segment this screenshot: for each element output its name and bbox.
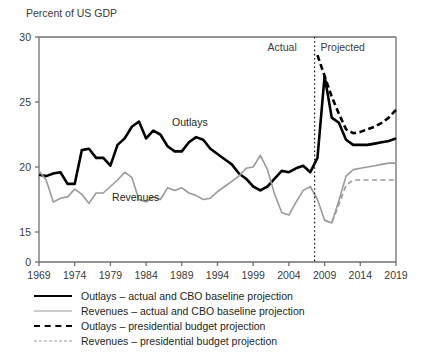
legend-label: Outlays – actual and CBO baseline projec…: [81, 290, 293, 302]
legend-swatch: [34, 336, 72, 346]
x-tick-label: 2014: [340, 269, 380, 281]
y-tick-label: 30: [7, 31, 31, 43]
chart-legend: Outlays – actual and CBO baseline projec…: [34, 288, 374, 348]
series-inline-label: Outlays: [172, 116, 208, 128]
series-line: [325, 180, 396, 223]
legend-item: Revenues – presidential budget projectio…: [34, 333, 374, 348]
legend-swatch: [34, 291, 72, 301]
x-tick-label: 1999: [233, 269, 273, 281]
series-line: [39, 76, 396, 190]
x-tick-label: 2009: [305, 269, 345, 281]
x-tick-label: 1969: [19, 269, 59, 281]
x-tick-label: 2004: [269, 269, 309, 281]
x-tick-label: 1974: [55, 269, 95, 281]
era-label-actual: Actual: [268, 41, 297, 53]
legend-label: Revenues – presidential budget projectio…: [81, 335, 277, 347]
series-line: [39, 155, 396, 223]
legend-item: Revenues – actual and CBO baseline proje…: [34, 303, 374, 318]
era-label-projected: Projected: [321, 41, 365, 53]
x-tick-label: 1989: [162, 269, 202, 281]
x-tick-label: 1994: [198, 269, 238, 281]
x-tick-label: 1979: [90, 269, 130, 281]
legend-label: Revenues – actual and CBO baseline proje…: [81, 305, 305, 317]
legend-item: Outlays – presidential budget projection: [34, 318, 374, 333]
chart-series: [39, 55, 396, 223]
y-tick-label: 15: [7, 226, 31, 238]
y-tick-label: 20: [7, 161, 31, 173]
x-tick-label: 1984: [126, 269, 166, 281]
legend-swatch: [34, 306, 72, 316]
legend-label: Outlays – presidential budget projection: [81, 320, 265, 332]
y-tick-label: 0: [7, 256, 31, 268]
legend-swatch: [34, 321, 72, 331]
legend-item: Outlays – actual and CBO baseline projec…: [34, 288, 374, 303]
series-line: [317, 55, 396, 133]
chart-figure: Percent of US GDP 015202530 196919741979…: [0, 0, 422, 359]
y-tick-label: 25: [7, 96, 31, 108]
x-tick-label: 2019: [376, 269, 416, 281]
series-inline-label: Revenues: [112, 191, 159, 203]
